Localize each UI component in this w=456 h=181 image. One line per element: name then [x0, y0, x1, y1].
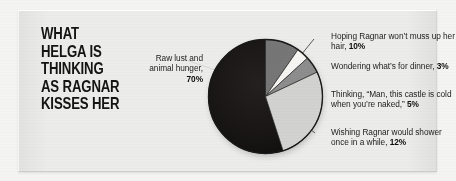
headline-line-1: WHAT	[41, 25, 127, 43]
pie-svg	[207, 38, 324, 155]
callout-shower-text: Wishing Ragnar would shower once in a wh…	[331, 127, 442, 147]
headline-line-4: AS RAGNAR	[41, 78, 127, 96]
callout-raw-lust[interactable]: Raw lust and animal hunger, 70%	[137, 53, 203, 84]
callout-castle-text: Thinking, “Man, this castle is cold when…	[331, 89, 451, 109]
infographic-card: WHAT HELGA IS THINKING AS RAGNAR KISSES …	[18, 10, 437, 172]
callout-castle[interactable]: Thinking, “Man, this castle is cold when…	[331, 89, 455, 110]
headline-line-2: HELGA IS	[41, 43, 127, 61]
callout-dinner[interactable]: Wondering what’s for dinner, 3%	[331, 61, 455, 71]
callout-castle-value: 5%	[407, 99, 419, 109]
callout-shower-value: 12%	[390, 137, 406, 147]
page-title: WHAT HELGA IS THINKING AS RAGNAR KISSES …	[41, 25, 127, 113]
callout-raw-lust-value: 70%	[187, 74, 203, 84]
callout-shower[interactable]: Wishing Ragnar would shower once in a wh…	[331, 127, 455, 148]
callout-hair[interactable]: Hoping Ragnar won’t muss up her hair, 10…	[331, 31, 455, 52]
scanned-page: WHAT HELGA IS THINKING AS RAGNAR KISSES …	[0, 0, 456, 181]
callout-dinner-value: 3%	[437, 61, 449, 71]
headline-line-5: KISSES HER	[41, 95, 127, 113]
callout-dinner-text: Wondering what’s for dinner,	[331, 61, 434, 71]
pie-chart[interactable]	[207, 38, 324, 155]
headline-line-3: THINKING	[41, 60, 127, 78]
callout-raw-lust-text: Raw lust and animal hunger,	[149, 53, 203, 73]
callout-hair-value: 10%	[349, 41, 365, 51]
